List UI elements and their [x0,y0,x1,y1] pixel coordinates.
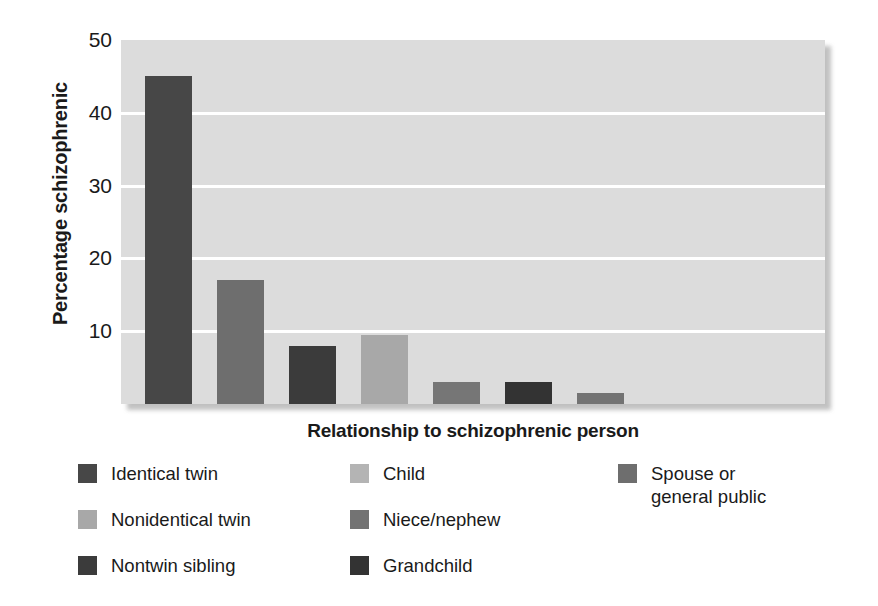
legend-swatch-icon [78,510,97,529]
chart-legend: Identical twinNonidentical twinNontwin s… [78,462,858,592]
bar-2 [289,346,336,404]
bar-6 [577,393,624,404]
legend-label: Identical twin [111,462,218,485]
legend-swatch-icon [78,464,97,483]
gridline-20 [121,257,825,260]
legend-label: Grandchild [383,554,472,577]
legend-item-4: Niece/nephew [350,508,500,531]
legend-label: Child [383,462,425,485]
legend-swatch-icon [618,464,637,483]
legend-item-6: Spouse or general public [618,462,766,508]
legend-swatch-icon [350,510,369,529]
bar-chart-figure: Percentage schizophrenic 1020304050 Rela… [0,0,878,606]
legend-item-1: Nonidentical twin [78,508,251,531]
x-axis-title: Relationship to schizophrenic person [121,420,825,442]
plot-area [121,40,825,404]
gridline-30 [121,185,825,188]
legend-swatch-icon [350,464,369,483]
legend-item-0: Identical twin [78,462,218,485]
legend-item-2: Nontwin sibling [78,554,235,577]
bar-3 [361,335,408,404]
y-tick-label-40: 40 [68,102,112,123]
legend-label: Nonidentical twin [111,508,251,531]
bar-1 [217,280,264,404]
legend-label: Nontwin sibling [111,554,235,577]
gridline-40 [121,112,825,115]
legend-swatch-icon [350,556,369,575]
y-tick-label-10: 10 [68,320,112,341]
legend-label: Niece/nephew [383,508,500,531]
bar-5 [505,382,552,404]
bar-0 [145,76,192,404]
bar-4 [433,382,480,404]
y-tick-label-20: 20 [68,247,112,268]
y-tick-label-30: 30 [68,175,112,196]
legend-item-3: Child [350,462,425,485]
legend-label: Spouse or general public [651,462,766,508]
y-tick-label-50: 50 [68,29,112,50]
legend-item-5: Grandchild [350,554,472,577]
legend-swatch-icon [78,556,97,575]
